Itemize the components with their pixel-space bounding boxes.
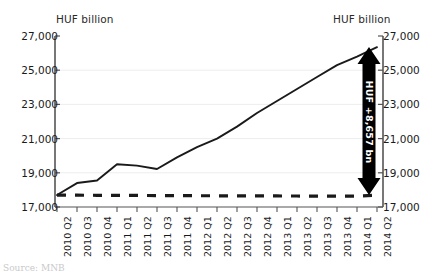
x-axis-label: 2013 Q3 [322, 216, 333, 257]
data-series-layer [57, 47, 377, 196]
y-axis-label-left: 19,000 [21, 167, 58, 179]
x-axis-label: 2010 Q3 [82, 216, 93, 257]
y-axis-label-right: 19,000 [383, 167, 420, 179]
x-axis-label: 2011 Q1 [122, 216, 133, 257]
x-axis-label: 2012 Q4 [262, 216, 273, 257]
y-axis-tick-marks [55, 36, 383, 207]
y-axis-label-left: 27,000 [21, 30, 58, 42]
y-axis-label-right: 27,000 [383, 30, 420, 42]
x-axis-label: 2011 Q2 [142, 216, 153, 257]
x-axis-label: 2012 Q1 [202, 216, 213, 257]
y-axis-label-right: 23,000 [383, 98, 420, 110]
x-axis-label: 2013 Q1 [282, 216, 293, 257]
growth-annotation-label: HUF +8,657 bn [364, 81, 375, 161]
y-axis-label-left: 23,000 [21, 98, 58, 110]
chart-container: HUF billion HUF billion 17,00019,00021,0… [0, 0, 445, 275]
x-axis-label: 2010 Q2 [62, 216, 73, 257]
y-axis-label-left: 25,000 [21, 64, 58, 76]
x-axis-label: 2013 Q2 [302, 216, 313, 257]
x-axis-label: 2012 Q2 [222, 216, 233, 257]
x-axis-label: 2013 Q4 [342, 216, 353, 257]
x-axis-tick-marks [57, 207, 377, 212]
y-axis-label-left: 21,000 [21, 133, 58, 145]
x-axis-label: 2014 Q2 [382, 216, 393, 257]
axis-lines [55, 36, 383, 207]
y-axis-label-left: 17,000 [21, 201, 58, 213]
source-note: Source: MNB [3, 263, 65, 273]
y-axis-label-right: 17,000 [383, 201, 420, 213]
y-axis-label-right: 21,000 [383, 133, 420, 145]
x-axis-label: 2014 Q1 [362, 216, 373, 257]
x-axis-label: 2010 Q4 [102, 216, 113, 257]
series-baseline [57, 195, 377, 196]
x-axis-label: 2011 Q4 [182, 216, 193, 257]
gridlines [57, 70, 383, 173]
x-axis-label: 2011 Q3 [162, 216, 173, 257]
y-axis-label-right: 25,000 [383, 64, 420, 76]
x-axis-label: 2012 Q3 [242, 216, 253, 257]
